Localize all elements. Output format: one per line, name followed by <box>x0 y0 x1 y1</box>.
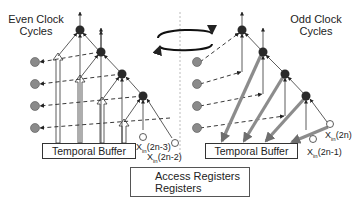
odd-buffer-label: Temporal Buffer <box>215 145 289 157</box>
even-title-line2: Cycles <box>4 25 68 37</box>
legend-registers: Registers <box>155 182 201 194</box>
legend: Access Registers Registers <box>130 167 250 197</box>
even-buffer-label: Temporal Buffer <box>52 145 126 157</box>
register-circles <box>31 58 40 133</box>
even-title-line1: Even Clock <box>4 13 68 25</box>
rotation-arrows-icon <box>158 30 212 50</box>
even-title: Even Clock Cycles <box>4 13 68 37</box>
odd-temporal-buffer: Temporal Buffer <box>205 143 298 159</box>
odd-input-label-2: Xin(2n-1) <box>307 147 342 161</box>
legend-access-registers: Access Registers <box>155 170 240 182</box>
even-temporal-buffer: Temporal Buffer <box>42 143 136 159</box>
hollow-up-arrows <box>53 53 129 143</box>
odd-input-label-1: Xin(2n) <box>325 130 352 144</box>
odd-title: Odd Clock Cycles <box>284 13 348 37</box>
even-input-label-2: Xin(2n-2) <box>147 152 182 166</box>
odd-title-line1: Odd Clock <box>284 13 348 25</box>
register-circles <box>193 58 202 133</box>
odd-title-line2: Cycles <box>284 25 348 37</box>
